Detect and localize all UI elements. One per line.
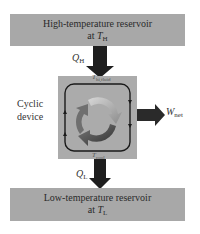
device-label-line1: Cyclic: [17, 97, 57, 110]
device-top-temp: Thi,fluid: [92, 73, 111, 81]
device-label-line2: device: [17, 110, 57, 123]
low-reservoir-temp: at TL: [10, 204, 185, 216]
cycle-loop: [58, 76, 137, 159]
heat-out-subscript: L: [83, 173, 87, 181]
low-reservoir-label: Low-temperature reservoir: [10, 188, 185, 204]
high-reservoir-temp: at TH: [10, 30, 185, 42]
work-out-subscript: net: [174, 111, 183, 119]
heat-in-subscript: H: [79, 57, 84, 65]
low-reservoir-subscript: L: [103, 209, 107, 217]
low-reservoir-prefix: at: [88, 204, 98, 215]
cyclic-device-label: Cyclic device: [17, 97, 57, 123]
heat-out-label: QL: [76, 168, 88, 179]
device-top-temp-sub: hi,fluid: [96, 77, 111, 82]
heat-in-label: QH: [72, 52, 84, 63]
high-reservoir-label: High-temperature reservoir: [10, 14, 185, 30]
high-temperature-reservoir: High-temperature reservoir at TH: [10, 14, 185, 46]
low-temperature-reservoir: Low-temperature reservoir at TL: [10, 188, 185, 221]
work-out-label: Wnet: [166, 106, 183, 117]
device-bottom-temp: Tcool: [92, 151, 105, 159]
cyclic-device-box: Thi,fluid Tcool: [58, 76, 137, 159]
high-reservoir-prefix: at: [87, 30, 97, 41]
heat-out-arrow: [89, 159, 111, 189]
high-reservoir-subscript: H: [103, 35, 108, 43]
work-out-arrow: [137, 104, 165, 126]
